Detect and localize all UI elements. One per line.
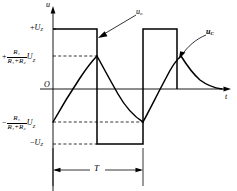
level-label-upper-threshold: +R₁R₁+R₂UZ bbox=[2, 48, 35, 65]
uc-sub: C bbox=[210, 31, 213, 36]
x-axis-label: t bbox=[225, 93, 227, 101]
dashed-guides bbox=[53, 29, 144, 144]
lower-threshold-numerator: R₁ bbox=[7, 115, 27, 122]
curve-label-uc: uC bbox=[206, 28, 214, 36]
upper-threshold-denominator: R₁+R₂ bbox=[7, 57, 27, 65]
curve-label-uo: uo bbox=[136, 8, 143, 16]
minus-uz-sub: Z bbox=[40, 142, 43, 147]
level-label-plus-uz: +UZ bbox=[30, 24, 43, 32]
period-label: T bbox=[94, 164, 99, 173]
lower-threshold-denominator: R₁+R₂ bbox=[7, 123, 27, 131]
lower-threshold-fraction: R₁R₁+R₂ bbox=[7, 115, 27, 131]
level-label-minus-uz: −UZ bbox=[30, 139, 43, 147]
waveform-figure: u t O +UZ +R₁R₁+R₂UZ −R₁R₁+R₂UZ −UZ uo u… bbox=[0, 0, 237, 191]
uo-leader bbox=[98, 15, 136, 38]
axis-group bbox=[40, 6, 231, 191]
upper-threshold-fraction: R₁R₁+R₂ bbox=[7, 49, 27, 65]
plus-uz-sub: Z bbox=[40, 27, 43, 32]
upper-threshold-sub: Z bbox=[32, 58, 35, 63]
uo-sub: o bbox=[140, 11, 143, 16]
y-axis-label: u bbox=[46, 1, 50, 9]
level-label-lower-threshold: −R₁R₁+R₂UZ bbox=[2, 114, 35, 131]
period-arrow-right bbox=[136, 168, 144, 173]
origin-label: O bbox=[44, 81, 50, 89]
square-wave-uo bbox=[53, 29, 177, 144]
lower-threshold-sub: Z bbox=[32, 124, 35, 129]
period-arrow-left bbox=[53, 168, 61, 173]
uc-leader bbox=[179, 35, 206, 59]
upper-threshold-numerator: R₁ bbox=[7, 49, 27, 56]
x-axis-arrow bbox=[224, 87, 232, 92]
y-axis-arrow bbox=[51, 6, 56, 14]
